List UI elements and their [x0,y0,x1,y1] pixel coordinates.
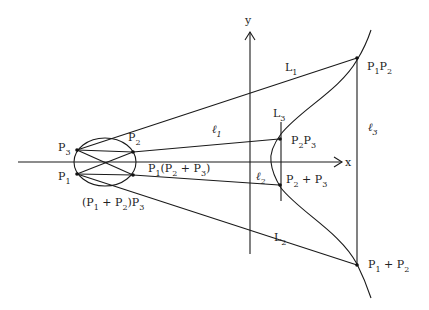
chord-p3-p2 [77,150,133,152]
label-p1-p2p3: P1(P2 + P3) [148,162,210,178]
line-l1 [133,139,279,152]
label-l1: ℓ1 [212,123,222,139]
label-L3: L3 [273,107,285,123]
x-axis-label: x [345,156,352,169]
label-p1p2: P1P2 [367,60,392,76]
point-p2-plus-p3 [278,183,282,187]
label-p3: P3 [58,141,71,157]
label-L1: L1 [285,61,297,77]
y-axis [245,32,255,254]
point-p3 [75,148,79,152]
point-p1 [75,172,79,176]
label-p2-plus-p3: P2 + P3 [286,173,327,189]
label-L2: L2 [274,231,286,247]
chord-p1-p1p2p3 [77,174,133,175]
point-p1-p2p3 [131,173,135,177]
point-p1-plus-p2 [355,263,359,267]
y-axis-label: y [244,14,252,27]
point-p2p3 [278,137,282,141]
label-p1p2-p3: (P1 + P2)P3 [82,196,144,212]
point-p1p2 [355,56,359,60]
point-p2 [131,150,135,154]
label-p2p3: P2P3 [291,134,316,150]
elliptic-curve-diagram: y x P3 P1 P2 P1(P2 + P3) (P1 + P2)P3 L1 … [0,0,429,310]
label-p1-plus-p2: P1 + P2 [368,258,409,274]
label-p1: P1 [58,170,71,186]
label-l3: ℓ3 [368,121,378,137]
label-p2: P2 [128,131,141,147]
